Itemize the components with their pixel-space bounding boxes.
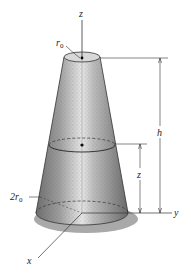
h-label: h xyxy=(157,127,162,138)
x-axis-label: x xyxy=(26,255,32,266)
z-axis-label: z xyxy=(78,8,83,19)
r0-label: r0 xyxy=(56,37,64,50)
y-axis-label: y xyxy=(173,207,179,218)
z-dimension-label: z xyxy=(136,169,141,180)
top-center-dot xyxy=(81,57,84,60)
2r0-label: 2r0 xyxy=(10,191,23,204)
frustum-diagram: z r0 h z y x 2r0 xyxy=(0,0,191,279)
